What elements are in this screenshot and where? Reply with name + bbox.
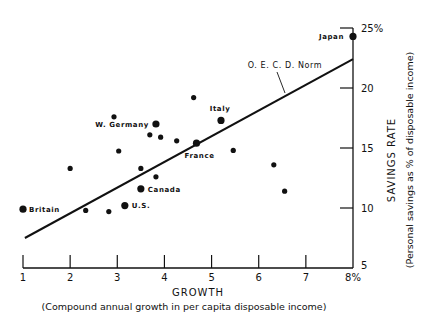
data-point-britain <box>19 206 26 213</box>
y-tick-label: 5 <box>361 260 367 271</box>
data-point <box>83 208 88 213</box>
x-tick-label: 2 <box>67 272 73 283</box>
y-tick-label: 25% <box>361 23 383 34</box>
oecd-norm-line <box>25 59 353 238</box>
x-axis-title: GROWTH <box>172 287 224 298</box>
x-tick-label: 5 <box>208 272 214 283</box>
data-point <box>158 135 163 140</box>
data-point <box>231 148 236 153</box>
data-point-france <box>193 140 200 147</box>
data-point <box>111 114 116 119</box>
y-tick-label: 15 <box>361 143 374 154</box>
oecd-norm-trend-line <box>25 59 353 238</box>
point-label: Canada <box>148 186 181 194</box>
point-label: W. Germany <box>95 121 149 129</box>
data-point <box>153 174 158 179</box>
data-point-u-s <box>121 202 128 209</box>
y-axis-title: SAVINGS RATE <box>386 118 397 202</box>
y-axis-subtitle: (Personal savings as % of disposable inc… <box>404 52 415 268</box>
data-point <box>271 162 276 167</box>
point-label: Japan <box>318 33 344 41</box>
savings-vs-growth-chart: 12345678%510152025% BritainU.S.CanadaW. … <box>0 0 430 330</box>
x-tick-label: 4 <box>161 272 167 283</box>
oecd-label-leader <box>277 72 285 93</box>
data-point <box>191 95 196 100</box>
data-point <box>116 148 121 153</box>
data-point <box>282 189 287 194</box>
x-tick-label: 8% <box>345 272 361 283</box>
x-axis-subtitle: (Compound annual growth in per capita di… <box>42 301 327 312</box>
point-label: France <box>184 152 214 160</box>
x-tick-label: 1 <box>20 272 26 283</box>
point-label: U.S. <box>132 202 150 210</box>
data-point <box>174 138 179 143</box>
data-point <box>138 166 143 171</box>
data-point <box>147 132 152 137</box>
data-point-canada <box>137 185 144 192</box>
oecd-norm-label: O. E. C. D. Norm <box>248 61 323 70</box>
data-point-japan <box>349 33 356 40</box>
data-point <box>106 209 111 214</box>
x-tick-label: 3 <box>114 272 120 283</box>
data-point-italy <box>217 117 224 124</box>
point-label: Britain <box>29 206 60 214</box>
point-label: Italy <box>210 105 231 113</box>
data-point-w-germany <box>152 120 159 127</box>
x-tick-label: 6 <box>256 272 262 283</box>
data-point <box>68 166 73 171</box>
y-tick-label: 10 <box>361 203 374 214</box>
y-tick-label: 20 <box>361 83 374 94</box>
data-points <box>19 33 356 214</box>
x-tick-label: 7 <box>303 272 309 283</box>
